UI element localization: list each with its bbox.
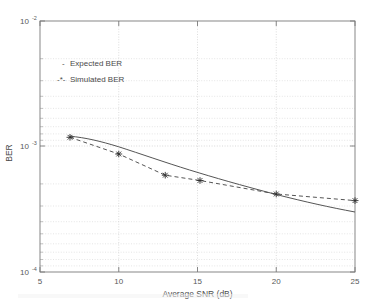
x-tick-label-15: 15 — [193, 277, 202, 286]
y-axis-tick-labels: 10 -2 10 -3 10 -4 — [20, 15, 37, 278]
x-tick-label-25: 25 — [351, 277, 360, 286]
y-tick-label-1e-3-exponent: -3 — [32, 140, 37, 146]
x-tick-label-5: 5 — [38, 277, 43, 286]
legend-marker-expected: - — [62, 59, 65, 68]
x-tick-label-20: 20 — [272, 277, 281, 286]
y-tick-label-1e-3-mantissa: 10 — [20, 142, 29, 151]
data-point-marker — [352, 197, 359, 204]
y-tick-label-1e-4-exponent: -4 — [32, 266, 37, 272]
x-axis-tick-labels: 5 10 15 20 25 — [38, 277, 360, 286]
y-tick-label-1e-4-mantissa: 10 — [20, 268, 29, 277]
scan-artifact-strip — [18, 294, 248, 298]
ber-vs-snr-chart: - Expected BER -*- Simulated BER 10 -2 1… — [0, 0, 372, 303]
data-point-marker — [162, 172, 169, 179]
figure-canvas: - Expected BER -*- Simulated BER 10 -2 1… — [0, 0, 372, 303]
y-tick-label-1e-2-exponent: -2 — [32, 15, 37, 21]
y-tick-label-1e-2-mantissa: 10 — [20, 17, 29, 26]
legend-marker-simulated: -*- — [57, 75, 66, 84]
legend-label-simulated: Simulated BER — [70, 75, 124, 84]
y-axis-title: BER — [4, 144, 14, 161]
data-point-marker — [67, 134, 74, 141]
data-point-marker — [197, 177, 204, 184]
x-tick-label-10: 10 — [114, 277, 123, 286]
legend-label-expected: Expected BER — [70, 59, 122, 68]
